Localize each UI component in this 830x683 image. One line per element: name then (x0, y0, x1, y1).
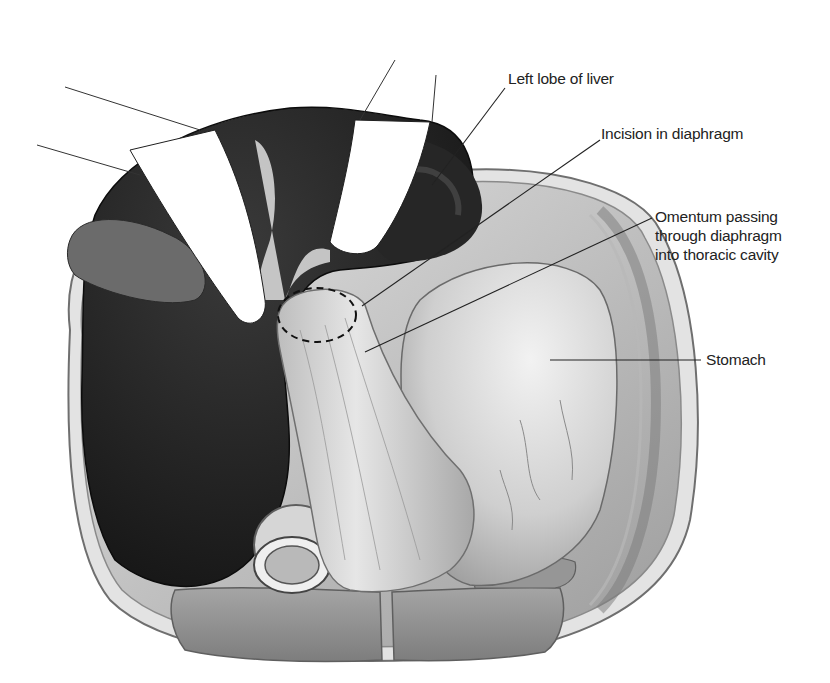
label-left-lobe-liver: Left lobe of liver (508, 69, 614, 88)
label-incision-diaphragm: Incision in diaphragm (601, 124, 743, 143)
illustration (0, 0, 830, 683)
label-stomach: Stomach (706, 350, 766, 369)
anatomical-figure: Left lobe of liver Incision in diaphragm… (0, 0, 830, 683)
label-omentum: Omentum passing through diaphragm into t… (655, 207, 782, 264)
